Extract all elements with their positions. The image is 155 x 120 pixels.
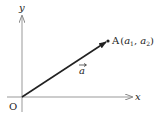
x-axis-label: x [135, 91, 141, 102]
origin-label: O [9, 101, 17, 112]
y-axis-label: y [18, 2, 25, 13]
vector-a-arrow [22, 42, 106, 97]
point-a-dot [106, 39, 109, 42]
point-a-label: A(a1, a2) [111, 35, 154, 47]
vector-diagram: y x O a A(a1, a2) [0, 0, 155, 120]
vector-a-label: a [79, 64, 87, 77]
svg-text:a: a [79, 65, 85, 76]
